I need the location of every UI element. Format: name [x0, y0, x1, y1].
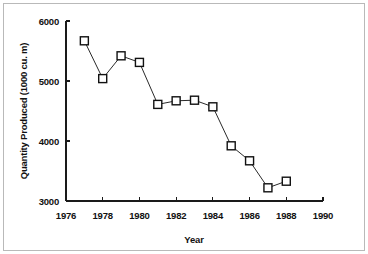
- y-tick-label-6000: 6000: [39, 16, 59, 27]
- data-point-1986: [246, 157, 254, 165]
- x-tick-label-1986: 1986: [239, 210, 259, 221]
- y-tick-label-5000: 5000: [39, 76, 59, 87]
- x-axis-title: Year: [184, 234, 204, 245]
- data-point-1977: [80, 37, 88, 45]
- x-tick-label-1988: 1988: [276, 210, 296, 221]
- data-point-1978: [99, 75, 107, 83]
- x-tick-label-1984: 1984: [203, 210, 224, 221]
- data-point-1983: [191, 96, 199, 104]
- data-point-1981: [154, 100, 162, 108]
- x-tick-label-1978: 1978: [93, 210, 113, 221]
- chart-figure: 19761978198019821984198619881990 3000400…: [0, 0, 368, 254]
- x-tick-label-1982: 1982: [166, 210, 186, 221]
- x-tick-label-1990: 1990: [313, 210, 333, 221]
- x-tick-label-1976: 1976: [56, 210, 76, 221]
- data-point-1982: [172, 97, 180, 105]
- data-point-1984: [209, 103, 217, 111]
- line-chart: 19761978198019821984198619881990 3000400…: [0, 0, 368, 254]
- series-line-quantity-produced: [84, 41, 286, 188]
- data-point-1985: [227, 142, 235, 150]
- y-axis-title: Quantity Produced (1000 cu. m): [18, 43, 29, 180]
- y-tick-label-4000: 4000: [39, 136, 59, 147]
- y-tick-labels: 3000400050006000: [39, 16, 59, 207]
- y-tick-label-3000: 3000: [39, 196, 59, 207]
- x-tick-labels: 19761978198019821984198619881990: [56, 210, 333, 221]
- data-point-1987: [264, 184, 272, 192]
- data-point-1988: [282, 177, 290, 185]
- data-point-1980: [135, 58, 143, 66]
- axis-ticks: [66, 21, 323, 201]
- axes: [66, 21, 323, 201]
- data-point-1979: [117, 52, 125, 60]
- x-tick-label-1980: 1980: [129, 210, 149, 221]
- data-series: [80, 37, 290, 192]
